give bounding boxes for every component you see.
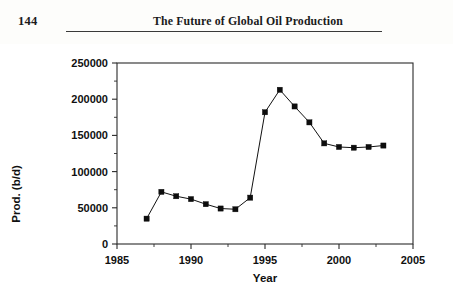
production-line-chart: 050000100000150000200000250000 198519901… [0, 44, 453, 308]
page-number: 144 [18, 14, 37, 29]
y-tick-label: 0 [102, 238, 108, 250]
data-point-marker [203, 202, 208, 207]
x-tick-label: 2000 [327, 254, 351, 266]
data-point-marker [322, 141, 327, 146]
y-tick-label: 100000 [71, 166, 108, 178]
data-point-marker [307, 120, 312, 125]
x-tick-label: 1990 [179, 254, 203, 266]
y-tick-label: 200000 [71, 93, 108, 105]
chart-svg: 050000100000150000200000250000 198519901… [0, 44, 453, 308]
header-rule [66, 31, 382, 32]
x-axis-title: Year [253, 272, 278, 284]
page-canvas: 144 The Future of Global Oil Production … [0, 0, 453, 308]
data-point-marker [262, 110, 267, 115]
data-point-marker [336, 144, 341, 149]
x-tick-label: 1985 [105, 254, 129, 266]
data-point-marker [159, 189, 164, 194]
data-point-marker [188, 197, 193, 202]
x-tick-label: 2005 [401, 254, 425, 266]
data-point-marker [351, 145, 356, 150]
y-axis-title: Prod. (b/d) [10, 165, 22, 223]
data-point-marker [248, 195, 253, 200]
data-point-marker [381, 143, 386, 148]
chart-background [0, 44, 453, 308]
data-point-marker [144, 216, 149, 221]
data-point-marker [277, 87, 282, 92]
y-tick-label: 250000 [71, 57, 108, 69]
data-point-marker [174, 194, 179, 199]
y-tick-label: 50000 [77, 202, 108, 214]
x-tick-label: 1995 [253, 254, 277, 266]
y-tick-label: 150000 [71, 129, 108, 141]
data-point-marker [218, 206, 223, 211]
data-point-marker [292, 104, 297, 109]
running-header: 144 The Future of Global Oil Production [0, 0, 453, 40]
data-point-marker [233, 207, 238, 212]
data-point-marker [366, 144, 371, 149]
book-title: The Future of Global Oil Production [92, 14, 404, 29]
